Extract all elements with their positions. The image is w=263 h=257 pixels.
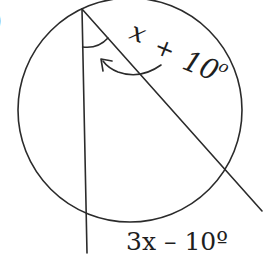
angle-arc-marker <box>83 38 108 47</box>
vertical-chord <box>82 9 87 253</box>
arc-label: 3x – 10º <box>126 227 228 256</box>
angle-label-value: 10 <box>178 44 223 88</box>
angle-label-var: x <box>126 16 151 49</box>
geometry-diagram: ) x + 10 o 3x – 10º <box>0 0 263 257</box>
angle-label: x + 10 o <box>122 16 234 91</box>
problem-number-marker: ) <box>0 5 2 35</box>
angle-label-plus: + <box>150 32 179 65</box>
curved-arrow-icon <box>101 59 161 75</box>
